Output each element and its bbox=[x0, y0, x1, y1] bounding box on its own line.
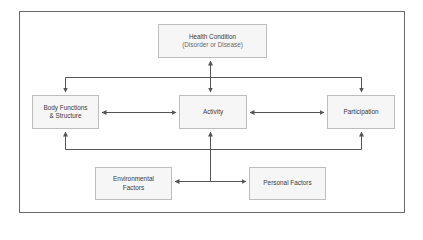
top-distribution-line bbox=[66, 78, 362, 93]
body-functions-line1: Body Functions bbox=[43, 104, 87, 112]
participation-title: Participation bbox=[343, 108, 378, 116]
node-body-functions: Body Functions & Structure bbox=[32, 95, 99, 129]
health-condition-title: Health Condition bbox=[189, 33, 236, 41]
node-environmental-factors: Environmental Factors bbox=[95, 167, 172, 200]
personal-factors-title: Personal Factors bbox=[263, 179, 311, 187]
body-functions-line2: & Structure bbox=[50, 112, 82, 120]
node-participation: Participation bbox=[327, 95, 395, 129]
bottom-distribution-line bbox=[66, 132, 362, 150]
node-activity: Activity bbox=[179, 95, 247, 129]
health-condition-subtitle: (Disorder or Disease) bbox=[182, 41, 243, 49]
environmental-line2: Factors bbox=[123, 184, 144, 192]
activity-title: Activity bbox=[203, 108, 223, 116]
environmental-line1: Environmental bbox=[113, 175, 154, 183]
node-health-condition: Health Condition (Disorder or Disease) bbox=[158, 24, 267, 58]
node-personal-factors: Personal Factors bbox=[249, 167, 326, 200]
